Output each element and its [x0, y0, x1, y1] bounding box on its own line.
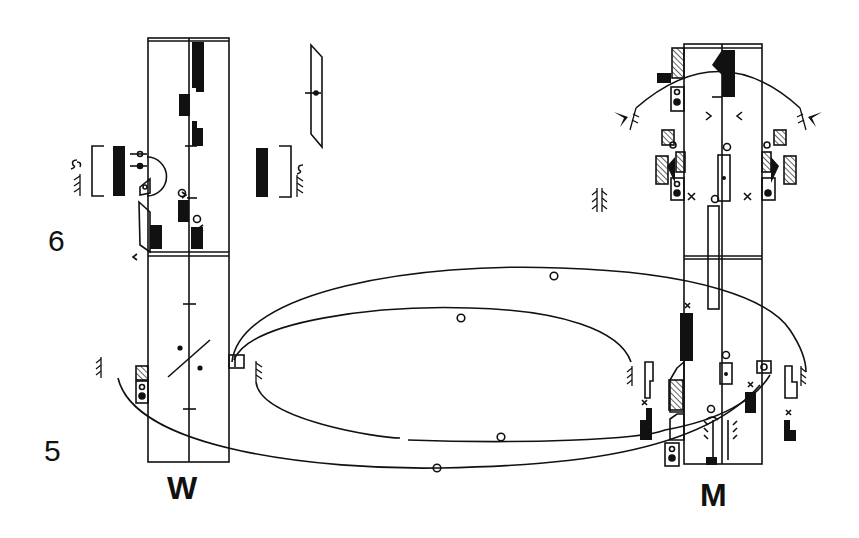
floor-paths	[118, 267, 806, 472]
staff-m	[592, 44, 822, 466]
staff-label-w: W	[167, 470, 197, 507]
direction-symbols-m	[640, 50, 796, 465]
measure-number-6: 6	[48, 224, 65, 258]
measure-number-5: 5	[44, 434, 61, 468]
notation-diagram	[0, 0, 859, 538]
staff-label-m: M	[700, 477, 727, 514]
staff-w	[71, 38, 322, 462]
